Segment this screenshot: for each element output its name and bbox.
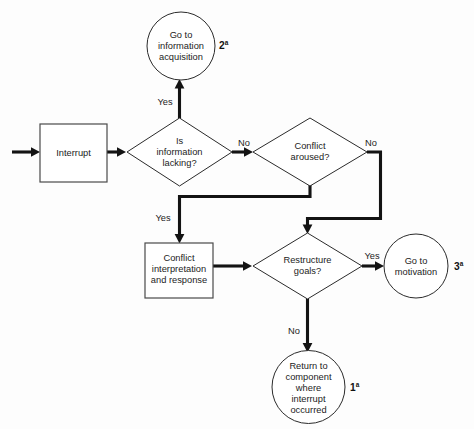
conflict-interpretation-line3: and response <box>151 275 207 285</box>
restructure-goals-line1: Restructure <box>283 255 331 265</box>
edge-lacking-yes-to-information-acquisition: Yes <box>157 79 184 119</box>
footnote-marker-2: 2a <box>219 39 229 51</box>
flowchart-diagram: Go to information acquisition --> Yes Co… <box>0 0 474 429</box>
return-to-component-line3: where <box>295 383 321 393</box>
footnote-marker-2-sup: a <box>225 39 229 46</box>
conflict-interpretation-line2: interpretation <box>152 264 206 274</box>
edge-label-restructure-no: No <box>288 326 300 336</box>
go-to-motivation-line1: Go to <box>405 256 428 266</box>
go-to-information-acquisition-line3: acquisition <box>159 52 203 62</box>
restructure-goals-line2: goals? <box>294 266 321 276</box>
is-information-lacking-line1: Is <box>176 136 184 146</box>
edge-label-lacking-yes: Yes <box>157 97 173 107</box>
edge-lacking-no-to-conflict-aroused: No <box>232 138 253 157</box>
edge-interrupt-to-lacking <box>107 147 126 156</box>
return-to-component-line5: occurred <box>290 405 326 415</box>
conflict-interpretation-line1: Conflict <box>163 253 194 263</box>
return-to-component-line2: component <box>286 372 332 382</box>
edge-label-lacking-no: No <box>238 138 250 148</box>
edge-interpretation-to-restructure <box>213 261 252 270</box>
return-to-component-line4: interrupt <box>291 394 326 404</box>
go-to-motivation-circle[interactable] <box>384 234 448 298</box>
node-conflict-interpretation[interactable]: Conflict interpretation and response <box>145 243 213 298</box>
is-information-lacking-line3: lacking? <box>162 158 196 168</box>
is-information-lacking-line2: information <box>157 147 203 157</box>
edge-entry-to-interrupt <box>12 147 40 156</box>
footnote-marker-3: 3a <box>454 260 464 272</box>
edge-label-restructure-yes: Yes <box>364 251 380 261</box>
edge-conflict-aroused-yes-to-interpretation: Yes <box>155 185 310 244</box>
footnote-marker-3-sup: a <box>460 260 464 267</box>
go-to-information-acquisition-line2: information <box>158 41 204 51</box>
edge-restructure-yes-to-motivation: Yes <box>362 251 384 271</box>
go-to-motivation-line2: motivation <box>395 267 437 277</box>
footnote-marker-1: 1a <box>350 381 360 393</box>
return-to-component-line1: Return to <box>289 361 327 371</box>
edge-restructure-no-to-return: No <box>288 296 312 353</box>
node-restructure-goals[interactable]: Restructure goals? <box>253 233 362 299</box>
node-return-to-component[interactable]: Return to component where interrupt occu… <box>272 351 360 424</box>
node-go-to-motivation[interactable]: Go to motivation 3a <box>384 234 464 298</box>
node-interrupt[interactable]: Interrupt <box>40 124 107 182</box>
interrupt-label: Interrupt <box>56 148 91 158</box>
node-is-information-lacking[interactable]: Is information lacking? <box>127 118 232 186</box>
edge-label-conflict-aroused-yes: Yes <box>155 213 171 223</box>
flowchart-canvas: Go to information acquisition --> Yes Co… <box>0 0 474 429</box>
go-to-information-acquisition-line1: Go to <box>170 30 193 40</box>
conflict-aroused-line1: Conflict <box>294 141 325 151</box>
footnote-marker-1-sup: a <box>356 381 360 388</box>
edge-label-conflict-aroused-no: No <box>365 138 377 148</box>
node-go-to-information-acquisition[interactable]: Go to information acquisition 2a <box>147 12 229 80</box>
node-conflict-aroused[interactable]: Conflict aroused? <box>253 118 367 186</box>
conflict-aroused-line2: aroused? <box>291 152 330 162</box>
